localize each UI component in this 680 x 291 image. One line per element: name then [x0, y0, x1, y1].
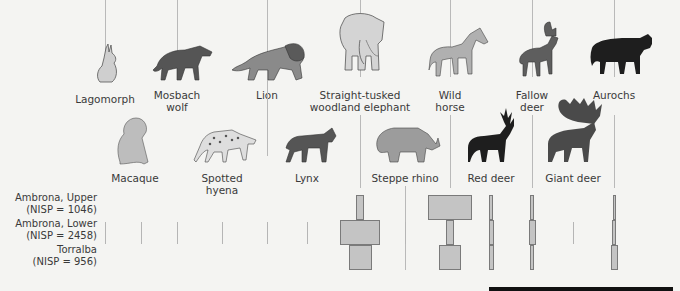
- macaque-icon: [118, 118, 148, 164]
- rhino-icon: [377, 128, 440, 162]
- horse-icon: [429, 28, 488, 76]
- fallow-deer-icon: [520, 22, 558, 76]
- red-deer-icon: [468, 108, 514, 162]
- elephant-icon: [340, 14, 384, 71]
- hare-icon: [98, 44, 117, 82]
- hyena-icon: [194, 130, 256, 162]
- giant-deer-icon: [548, 98, 602, 162]
- aurochs-icon: [591, 34, 653, 74]
- lion-icon: [232, 44, 304, 80]
- wolf-icon: [153, 46, 212, 80]
- lynx-icon: [286, 128, 336, 162]
